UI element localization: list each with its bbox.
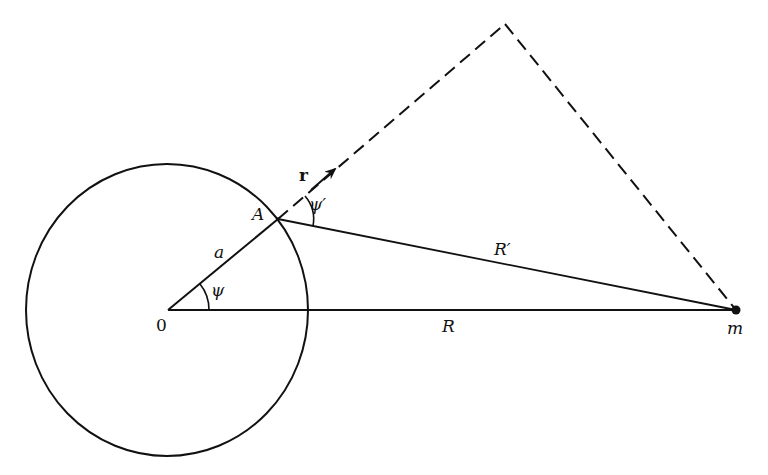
- label-distance-R-prime: R′: [494, 241, 511, 258]
- line-R-prime: [278, 219, 736, 310]
- label-origin: 0: [156, 317, 167, 334]
- mass-point: [732, 306, 741, 315]
- label-radius-a: a: [214, 244, 224, 261]
- label-angle-psi-prime: ψ′: [309, 196, 326, 213]
- label-point-A: A: [252, 206, 264, 223]
- label-distance-R: R: [442, 318, 455, 335]
- potential-geometry-diagram: 0 A a ψ ψ′ r R R′ m: [0, 0, 768, 475]
- angle-psi-arc: [200, 284, 209, 310]
- dashed-apex-to-m: [505, 24, 736, 310]
- label-mass-m: m: [727, 320, 743, 337]
- vector-r-arrow: [311, 169, 335, 190]
- label-vector-r: r: [299, 167, 308, 184]
- diagram-canvas: [0, 0, 768, 475]
- point-A-marker: [276, 217, 280, 221]
- label-angle-psi: ψ: [211, 282, 224, 299]
